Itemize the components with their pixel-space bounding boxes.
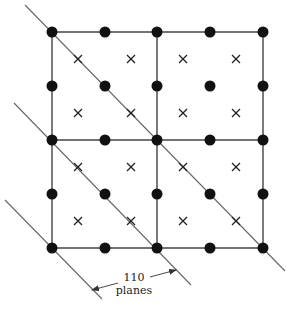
plane-label-text: planes bbox=[104, 284, 164, 297]
cross-icon bbox=[232, 55, 240, 63]
cross-icon bbox=[127, 163, 135, 171]
atom-dot bbox=[258, 189, 269, 200]
110-plane-lines bbox=[5, 5, 285, 299]
atom-dot bbox=[258, 135, 269, 146]
cross-icon bbox=[74, 217, 82, 225]
atom-dot bbox=[100, 189, 111, 200]
atom-dot bbox=[152, 135, 163, 146]
atom-dot bbox=[152, 189, 163, 200]
atom-dot bbox=[258, 243, 269, 254]
cross-icon bbox=[74, 55, 82, 63]
atom-dot bbox=[47, 27, 58, 38]
atom-dot bbox=[258, 27, 269, 38]
atom-dot bbox=[100, 81, 111, 92]
atom-dot bbox=[205, 243, 216, 254]
cross-icon bbox=[74, 109, 82, 117]
cross-icon bbox=[179, 163, 187, 171]
cross-icon bbox=[232, 109, 240, 117]
atom-dot bbox=[205, 135, 216, 146]
plane-label-index: 110 bbox=[104, 271, 164, 284]
atom-dot bbox=[47, 243, 58, 254]
atom-dot bbox=[258, 81, 269, 92]
plane-label: 110 planes bbox=[104, 271, 164, 297]
cross-icon bbox=[127, 109, 135, 117]
cross-icon bbox=[179, 55, 187, 63]
cross-icon bbox=[179, 109, 187, 117]
cross-icon bbox=[232, 163, 240, 171]
cross-icon bbox=[179, 217, 187, 225]
cross-icon bbox=[74, 163, 82, 171]
cross-icon bbox=[127, 55, 135, 63]
atom-dot bbox=[100, 135, 111, 146]
atom-dot bbox=[47, 135, 58, 146]
atom-dot bbox=[205, 27, 216, 38]
atom-dot bbox=[47, 81, 58, 92]
cross-icon bbox=[232, 217, 240, 225]
atom-dot bbox=[47, 189, 58, 200]
atom-dot bbox=[152, 81, 163, 92]
atom-dot bbox=[152, 243, 163, 254]
atom-dot bbox=[205, 81, 216, 92]
atom-dot bbox=[205, 189, 216, 200]
lattice-diagram bbox=[0, 0, 286, 311]
atom-dot bbox=[152, 27, 163, 38]
atom-dot bbox=[100, 243, 111, 254]
atom-dot bbox=[100, 27, 111, 38]
